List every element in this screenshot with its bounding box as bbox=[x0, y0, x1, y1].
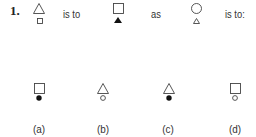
small-circle-outline-icon bbox=[232, 95, 238, 101]
square-outline-icon bbox=[230, 83, 241, 94]
square-outline-icon bbox=[34, 83, 45, 94]
option-label: (c) bbox=[155, 123, 182, 135]
connector-is-to: is to bbox=[63, 8, 80, 20]
small-square-outline-icon bbox=[37, 18, 43, 24]
triangle-outline-icon bbox=[97, 83, 109, 94]
small-triangle-outline-icon bbox=[193, 18, 200, 24]
option-label: (b) bbox=[90, 123, 117, 135]
option-label: (a) bbox=[26, 123, 53, 135]
triangle-outline-icon bbox=[33, 3, 45, 14]
question-number: 1. bbox=[10, 3, 20, 19]
triangle-outline-icon bbox=[163, 83, 175, 94]
small-triangle-filled-icon bbox=[114, 17, 122, 23]
connector-is-to-colon: is to: bbox=[225, 8, 245, 20]
square-outline-icon bbox=[113, 3, 124, 14]
small-circle-outline-icon bbox=[100, 95, 106, 101]
option-label: (d) bbox=[222, 123, 249, 135]
circle-outline-icon bbox=[191, 3, 202, 14]
connector-as: as bbox=[151, 8, 161, 20]
small-circle-filled-icon bbox=[36, 95, 42, 101]
small-circle-filled-icon bbox=[166, 95, 172, 101]
